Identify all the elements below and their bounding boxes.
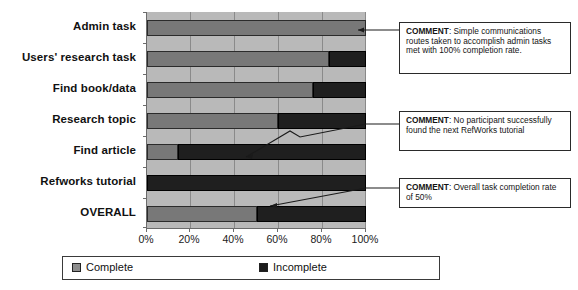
legend-item-complete: Complete (72, 261, 133, 273)
x-tick-0 (146, 228, 147, 232)
y-axis-label-1: Users' research task (22, 52, 136, 63)
chart-figure: Admin task Users' research task Find boo… (0, 0, 578, 290)
y-axis-labels: Admin task Users' research task Find boo… (0, 12, 140, 228)
x-axis-tick-label-4: 80% (301, 233, 341, 245)
bar-segment-incomplete (178, 144, 366, 160)
x-tick-60 (277, 228, 278, 232)
comment-label-2: COMMENT (406, 182, 449, 192)
x-axis-line (146, 228, 366, 229)
comment-label-1: COMMENT (406, 115, 449, 125)
bar-segment-incomplete (329, 51, 366, 67)
x-axis-tick-label-0: 0% (126, 233, 166, 245)
bar-segment-incomplete (147, 175, 366, 191)
y-axis-label-4: Find article (73, 145, 136, 156)
legend-label-incomplete: Incomplete (273, 261, 327, 273)
bar-row (147, 206, 366, 222)
x-tick-100 (365, 228, 366, 232)
bar-segment-complete (147, 82, 313, 98)
bar-segment-complete (147, 206, 257, 222)
x-axis-tick-label-5: 100% (345, 233, 385, 245)
bar-segment-incomplete (313, 82, 366, 98)
y-tick-6 (143, 198, 147, 199)
comment-box-refworks-tutorial: COMMENT: No participant successfully fou… (399, 111, 571, 151)
bar-segment-complete (147, 113, 278, 129)
y-tick-5 (143, 167, 147, 168)
bar-segment-incomplete (257, 206, 367, 222)
y-tick-4 (143, 136, 147, 137)
bar-row (147, 51, 366, 67)
bar-segment-complete (147, 144, 178, 160)
bar-row (147, 82, 366, 98)
x-axis-tick-label-2: 40% (213, 233, 253, 245)
legend-item-incomplete: Incomplete (259, 261, 327, 273)
bar-row (147, 175, 366, 191)
y-axis-label-3: Research topic (52, 114, 136, 125)
comment-box-admin-task: COMMENT: Simple communications routes ta… (399, 22, 571, 74)
y-tick-3 (143, 105, 147, 106)
bar-row (147, 20, 366, 36)
bar-row (147, 113, 366, 129)
chart-legend: Complete Incomplete (62, 256, 440, 280)
bar-segment-complete (147, 51, 329, 67)
y-tick-0 (143, 12, 147, 13)
bar-row (147, 144, 366, 160)
legend-swatch-complete-icon (72, 263, 81, 272)
legend-swatch-incomplete-icon (259, 263, 268, 272)
legend-label-complete: Complete (86, 261, 133, 273)
comment-box-overall: COMMENT: Overall task completion rate of… (399, 178, 571, 208)
bar-segment-incomplete (278, 113, 366, 129)
y-axis-label-0: Admin task (73, 21, 136, 32)
y-tick-1 (143, 43, 147, 44)
plot-area (146, 12, 366, 228)
x-tick-40 (233, 228, 234, 232)
y-axis-label-6: OVERALL (80, 207, 136, 218)
plot-inner (147, 12, 366, 228)
x-axis-tick-label-3: 60% (257, 233, 297, 245)
bar-segment-complete (147, 20, 366, 36)
x-tick-20 (189, 228, 190, 232)
x-axis-tick-label-1: 20% (169, 233, 209, 245)
comment-label-0: COMMENT (406, 26, 449, 36)
y-axis-label-2: Find book/data (53, 83, 136, 94)
x-tick-80 (321, 228, 322, 232)
y-axis-label-5: Refworks tutorial (40, 176, 136, 187)
y-tick-2 (143, 74, 147, 75)
